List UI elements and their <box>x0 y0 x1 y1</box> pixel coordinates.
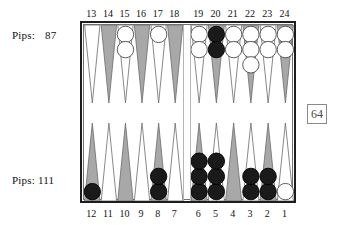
point-number-4: 4 <box>225 208 241 219</box>
point-number-5: 5 <box>207 208 223 219</box>
checker-black-point-6[interactable] <box>191 153 207 169</box>
point-number-1: 1 <box>276 208 292 219</box>
point-number-19: 19 <box>190 8 206 19</box>
checker-black-point-2[interactable] <box>260 183 276 199</box>
point-9-triangle[interactable] <box>134 123 149 201</box>
point-number-16: 16 <box>133 8 149 19</box>
checkers-group <box>84 26 293 200</box>
board-graphics <box>84 25 294 201</box>
checker-black-point-5[interactable] <box>208 168 224 184</box>
point-number-22: 22 <box>242 8 258 19</box>
checker-black-point-12[interactable] <box>84 183 100 199</box>
checker-white-point-22[interactable] <box>243 26 259 42</box>
pips-value-bottom: 111 <box>38 174 54 186</box>
checker-white-point-19[interactable] <box>191 26 207 42</box>
point-number-20: 20 <box>207 8 223 19</box>
point-number-18: 18 <box>166 8 182 19</box>
checker-white-point-1[interactable] <box>277 183 293 199</box>
board-playing-surface <box>83 24 293 200</box>
point-13-triangle[interactable] <box>85 25 100 103</box>
checker-black-point-6[interactable] <box>191 183 207 199</box>
point-number-17: 17 <box>150 8 166 19</box>
checker-white-point-24[interactable] <box>277 26 293 42</box>
checker-black-point-5[interactable] <box>208 153 224 169</box>
point-number-14: 14 <box>100 8 116 19</box>
checker-white-point-21[interactable] <box>225 41 241 57</box>
point-number-21: 21 <box>225 8 241 19</box>
pips-label-top-text: Pips: <box>12 29 35 41</box>
point-number-24: 24 <box>276 8 292 19</box>
board-frame <box>80 21 296 203</box>
point-10-triangle[interactable] <box>118 123 133 201</box>
checker-black-point-20[interactable] <box>208 41 224 57</box>
checker-black-point-2[interactable] <box>260 168 276 184</box>
point-number-6: 6 <box>190 208 206 219</box>
point-4-triangle[interactable] <box>226 123 242 201</box>
checker-white-point-24[interactable] <box>277 41 293 57</box>
checker-white-point-21[interactable] <box>225 26 241 42</box>
point-number-3: 3 <box>242 208 258 219</box>
checker-black-point-3[interactable] <box>243 168 259 184</box>
checker-black-point-6[interactable] <box>191 168 207 184</box>
doubling-cube-value: 64 <box>311 108 323 120</box>
checker-white-point-19[interactable] <box>191 41 207 57</box>
point-7-triangle[interactable] <box>168 123 183 201</box>
pips-label-bottom-text: Pips: <box>12 174 35 186</box>
checker-white-point-22[interactable] <box>243 57 259 73</box>
point-number-15: 15 <box>116 8 132 19</box>
point-number-2: 2 <box>259 208 275 219</box>
pips-value-top: 87 <box>45 29 56 41</box>
checker-black-point-8[interactable] <box>150 183 166 199</box>
point-number-7: 7 <box>166 208 182 219</box>
checker-black-point-20[interactable] <box>208 26 224 42</box>
checker-white-point-15[interactable] <box>117 41 133 57</box>
backgammon-diagram: Pips:87 Pips:111 24232221201918171615141… <box>0 0 340 225</box>
point-11-triangle[interactable] <box>101 123 116 201</box>
checker-white-point-23[interactable] <box>260 41 276 57</box>
checker-white-point-17[interactable] <box>150 26 166 42</box>
checker-black-point-3[interactable] <box>243 183 259 199</box>
point-16-triangle[interactable] <box>134 25 149 103</box>
checker-white-point-23[interactable] <box>260 26 276 42</box>
pips-count-bottom: Pips:111 <box>12 174 54 186</box>
point-14-triangle[interactable] <box>101 25 116 103</box>
checker-white-point-15[interactable] <box>117 26 133 42</box>
checker-black-point-5[interactable] <box>208 183 224 199</box>
checker-black-point-8[interactable] <box>150 168 166 184</box>
point-18-triangle[interactable] <box>168 25 183 103</box>
point-number-13: 13 <box>83 8 99 19</box>
point-number-12: 12 <box>83 208 99 219</box>
point-number-10: 10 <box>116 208 132 219</box>
point-number-8: 8 <box>150 208 166 219</box>
point-number-11: 11 <box>100 208 116 219</box>
point-number-9: 9 <box>133 208 149 219</box>
doubling-cube[interactable]: 64 <box>307 104 327 124</box>
pips-count-top: Pips:87 <box>12 29 56 41</box>
point-number-23: 23 <box>259 8 275 19</box>
checker-white-point-22[interactable] <box>243 41 259 57</box>
